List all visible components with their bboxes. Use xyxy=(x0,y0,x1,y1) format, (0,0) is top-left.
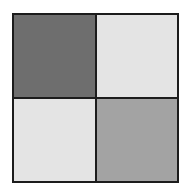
quadrant-bottom-left xyxy=(14,99,95,181)
checkerboard-grid xyxy=(12,13,179,183)
quadrant-top-right xyxy=(97,15,178,97)
quadrant-top-left xyxy=(14,15,95,97)
figure-canvas xyxy=(0,0,188,194)
quadrant-bottom-right xyxy=(97,99,178,181)
